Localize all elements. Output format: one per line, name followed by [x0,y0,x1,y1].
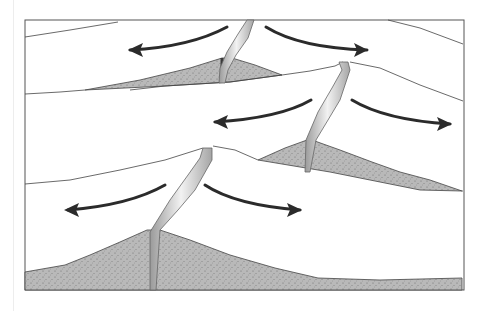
seafloor-spreading-diagram [0,0,489,311]
diagram-frame [25,20,464,290]
